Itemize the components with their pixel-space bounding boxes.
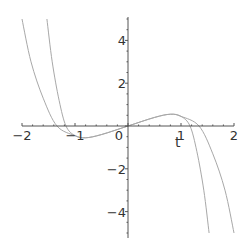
y-tick-label: 2	[118, 76, 126, 91]
x-tick-label: −1	[65, 128, 84, 143]
x-tick-label: −2	[12, 128, 31, 143]
ticks-group	[22, 19, 234, 233]
x-axis-title: t	[175, 134, 181, 150]
y-tick-label: −4	[107, 205, 126, 220]
plot-area: −2−1012−4−224 t	[0, 0, 250, 243]
x-tick-label: 2	[230, 128, 238, 143]
y-tick-label: −2	[107, 162, 126, 177]
y-tick-label: 4	[118, 33, 126, 48]
x-tick-label: 0	[115, 128, 123, 143]
